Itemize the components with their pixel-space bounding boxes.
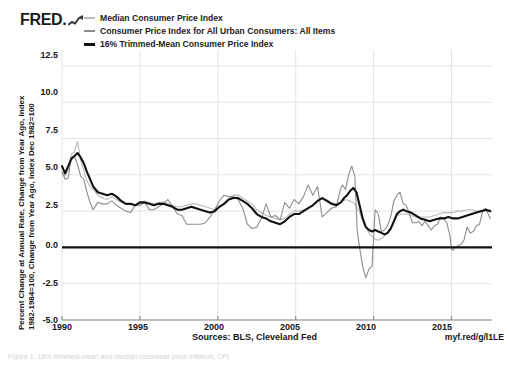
line-swatch-icon — [84, 30, 95, 32]
chart-short-url[interactable]: myf.red/g/l1LE — [400, 332, 504, 342]
x-tick-label: 1990 — [42, 322, 82, 332]
line-swatch-icon — [84, 17, 95, 19]
line-swatch-icon — [84, 43, 95, 46]
fred-chart-glyph-icon — [68, 15, 84, 26]
legend-label: Median Consumer Price Index — [100, 13, 223, 24]
legend-item-trimmed-mean-cpi[interactable]: 16% Trimmed-Mean Consumer Price Index — [84, 38, 335, 50]
x-tick-label: 1995 — [118, 322, 158, 332]
x-tick-label: 2015 — [422, 322, 462, 332]
legend-label: 16% Trimmed-Mean Consumer Price Index — [100, 39, 273, 50]
figure-caption: Figure 1: 16% trimmed-mean and median co… — [8, 353, 338, 360]
chart-legend: Median Consumer Price Index Consumer Pri… — [84, 12, 335, 51]
legend-item-median-cpi[interactable]: Median Consumer Price Index — [84, 12, 335, 24]
y-tick-label: 0.0 — [18, 240, 58, 250]
x-tick-label: 2010 — [346, 322, 386, 332]
y-axis-ticks: 12.5 10.0 7.5 5.0 2.5 0.0 -2.5 -5.0 — [0, 0, 58, 365]
plot-area — [0, 0, 509, 365]
y-tick-label: 5.0 — [18, 162, 58, 172]
legend-label: Consumer Price Index for All Urban Consu… — [100, 26, 335, 37]
fred-chart: FRED. Median Consumer Price Index Consum… — [0, 0, 509, 365]
y-tick-label: 7.5 — [18, 125, 58, 135]
y-tick-label: 10.0 — [18, 87, 58, 97]
y-tick-label: -2.5 — [18, 278, 58, 288]
y-tick-label: 2.5 — [18, 200, 58, 210]
y-tick-label: 12.5 — [18, 50, 58, 60]
legend-item-cpi-all-urban[interactable]: Consumer Price Index for All Urban Consu… — [84, 25, 335, 37]
x-tick-label: 2005 — [270, 322, 310, 332]
x-tick-label: 2000 — [194, 322, 234, 332]
